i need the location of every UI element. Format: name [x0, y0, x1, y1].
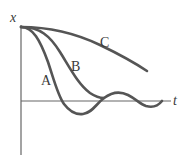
damping-diagram: x t A B C	[0, 0, 190, 163]
curve-c	[21, 27, 147, 71]
curve-a-label: A	[41, 73, 52, 88]
curve-b	[21, 27, 104, 98]
curve-b-label: B	[71, 59, 80, 74]
horizontal-axis-label: t	[173, 93, 178, 108]
vertical-axis-label: x	[9, 10, 17, 25]
curve-c-label: C	[100, 35, 109, 50]
